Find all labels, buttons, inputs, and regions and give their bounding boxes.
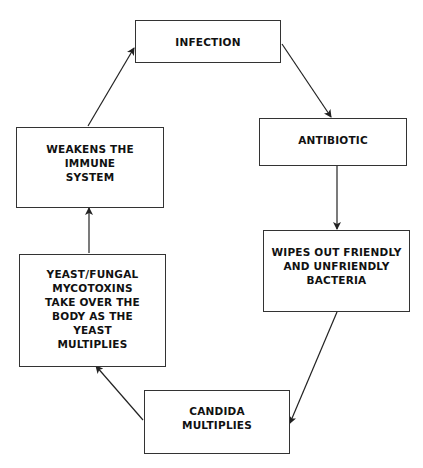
node-infection: INFECTION: [135, 20, 281, 63]
node-yeast-label: YEAST/FUNGAL MYCOTOXINS TAKE OVER THE BO…: [45, 267, 140, 351]
node-infection-label: INFECTION: [175, 35, 240, 49]
arrow-infection-to-antibiotic: [282, 44, 331, 117]
node-antibiotic: ANTIBIOTIC: [259, 118, 407, 166]
arrow-wipes-out-to-candida: [290, 312, 337, 423]
arrow-candida-to-yeast: [96, 366, 143, 420]
node-antibiotic-label: ANTIBIOTIC: [298, 133, 368, 147]
node-weakens: WEAKENS THE IMMUNE SYSTEM: [16, 127, 164, 208]
arrow-weakens-to-infection: [88, 48, 134, 126]
node-wipes-out-label: WIPES OUT FRIENDLY AND UNFRIENDLY BACTER…: [272, 245, 402, 287]
node-candida-label: CANDIDA MULTIPLIES: [182, 404, 252, 432]
node-yeast: YEAST/FUNGAL MYCOTOXINS TAKE OVER THE BO…: [19, 254, 166, 367]
node-candida: CANDIDA MULTIPLIES: [144, 390, 290, 454]
node-weakens-label: WEAKENS THE IMMUNE SYSTEM: [46, 142, 134, 184]
node-wipes-out: WIPES OUT FRIENDLY AND UNFRIENDLY BACTER…: [263, 230, 410, 312]
